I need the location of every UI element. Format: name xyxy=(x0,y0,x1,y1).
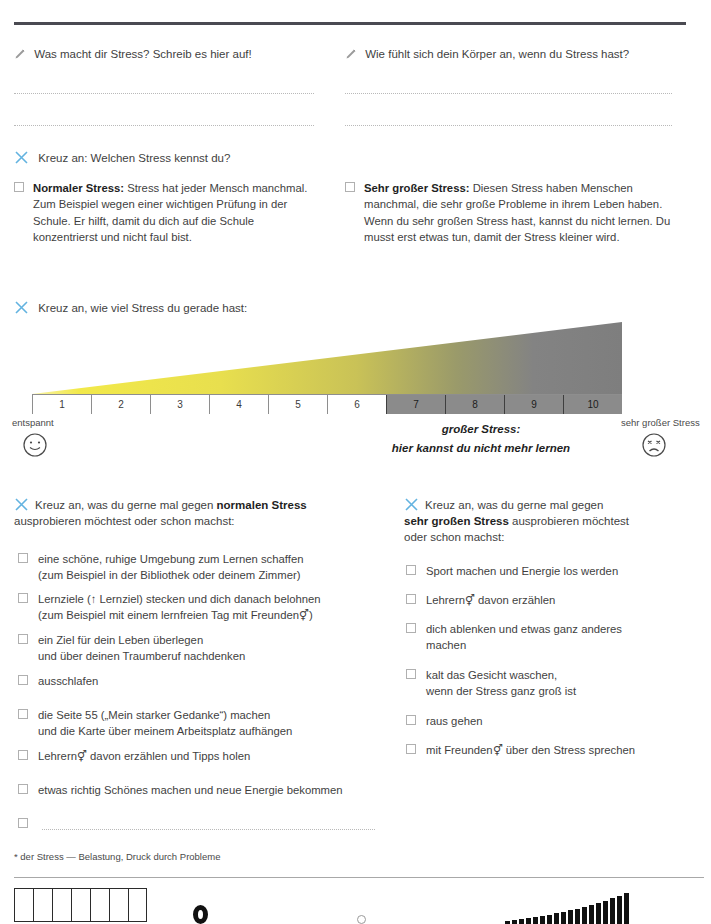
write-prompt-1-text: Was macht dir Stress? Schreib es hier au… xyxy=(34,48,252,60)
scale-caption-line2: hier kannst du nicht mehr lernen xyxy=(356,439,606,458)
scale-caption-line1: großer Stress: xyxy=(356,420,606,439)
worksheet-page: Was macht dir Stress? Schreib es hier au… xyxy=(0,0,711,924)
checkbox[interactable] xyxy=(406,744,416,754)
severe-list-heading-line2-post: ausprobieren möchtest xyxy=(509,515,629,527)
line-1: eine schöne, ruhige Umgebung zum Lernen … xyxy=(38,553,303,565)
checkbox[interactable] xyxy=(18,553,28,563)
stress-scale[interactable]: 1 2 3 4 5 6 7 8 9 10 xyxy=(32,322,622,413)
severe-list-heading-bold: sehr großen Stress xyxy=(404,515,509,527)
normal-list-heading-bold: normalen Stress xyxy=(217,499,307,511)
normal-option-7-text: etwas richtig Schönes machen und neue En… xyxy=(38,782,343,798)
severe-list-heading: Kreuz an, was du gerne mal gegen sehr gr… xyxy=(404,497,694,545)
normal-option-3[interactable]: ein Ziel für dein Leben überlegen und üb… xyxy=(18,632,388,664)
severe-option-6[interactable]: mit Freunden⚥ über den Stress sprechen xyxy=(406,742,686,758)
line-1: Lernziele (↑ Lernziel) stecken und dich … xyxy=(38,593,321,605)
top-clipped-text xyxy=(330,2,390,12)
scale-tick-3[interactable]: 3 xyxy=(150,395,209,414)
checkbox[interactable] xyxy=(406,715,416,725)
grid-cell xyxy=(71,888,90,922)
normal-option-7[interactable]: etwas richtig Schönes machen und neue En… xyxy=(18,782,388,798)
normal-option-6[interactable]: Lehrern⚥ davon erzählen und Tipps holen xyxy=(18,748,388,764)
scale-tick-2[interactable]: 2 xyxy=(91,395,150,414)
footer-divider xyxy=(14,877,704,878)
scale-tick-6[interactable]: 6 xyxy=(327,395,386,414)
severe-option-1[interactable]: Sport machen und Energie los werden xyxy=(406,563,686,579)
x-mark-icon xyxy=(14,497,29,512)
checkbox[interactable] xyxy=(18,593,28,603)
normal-list-heading: Kreuz an, was du gerne mal gegen normale… xyxy=(14,497,334,529)
checkbox[interactable] xyxy=(18,750,28,760)
stress-type-severe-title: Sehr großer Stress: xyxy=(364,182,469,194)
checkbox[interactable] xyxy=(18,634,28,644)
normal-option-8-write-line[interactable] xyxy=(42,828,375,830)
footer-circle-icon xyxy=(357,915,366,924)
header-divider xyxy=(14,22,686,25)
footnote: * der Stress — Belastung, Druck durch Pr… xyxy=(14,851,220,862)
normal-option-6-text: Lehrern⚥ davon erzählen und Tipps holen xyxy=(38,748,250,764)
line-2: (zum Beispiel mit einem lernfreien Tag m… xyxy=(38,609,313,621)
line-2: wenn der Stress ganz groß ist xyxy=(426,685,576,697)
footer-bar-chart xyxy=(505,890,629,924)
write-line-2a[interactable] xyxy=(345,92,672,94)
severe-option-5-text: raus gehen xyxy=(426,713,483,729)
normal-option-4[interactable]: ausschlafen xyxy=(18,673,388,689)
checkbox[interactable] xyxy=(18,709,28,719)
scale-tick-7[interactable]: 7 xyxy=(386,395,445,414)
scale-right-label: sehr großer Stress xyxy=(621,417,700,428)
checkbox[interactable] xyxy=(18,784,28,794)
stress-type-normal-text: Normaler Stress: Stress hat jeder Mensch… xyxy=(33,180,314,246)
severe-option-5[interactable]: raus gehen xyxy=(406,713,686,729)
grid-cell xyxy=(109,888,128,922)
pencil-icon xyxy=(14,48,26,60)
checkbox[interactable] xyxy=(18,675,28,685)
grid-cell xyxy=(14,888,33,922)
checkbox[interactable] xyxy=(345,182,355,192)
checkbox[interactable] xyxy=(406,669,416,679)
checkbox[interactable] xyxy=(14,182,24,192)
normal-option-2[interactable]: Lernziele (↑ Lernziel) stecken und dich … xyxy=(18,591,388,623)
scale-tick-8[interactable]: 8 xyxy=(445,395,504,414)
stress-types-heading-text: Kreuz an: Welchen Stress kennst du? xyxy=(38,152,230,164)
scale-tick-1[interactable]: 1 xyxy=(32,395,91,414)
x-mark-icon xyxy=(14,150,29,165)
normal-option-8-blank[interactable] xyxy=(18,816,388,828)
smiley-face-icon xyxy=(22,432,48,462)
line-2: (zum Beispiel in der Bibliothek oder dei… xyxy=(38,569,300,581)
checkbox[interactable] xyxy=(406,565,416,575)
severe-option-4[interactable]: kalt das Gesicht waschen, wenn der Stres… xyxy=(406,667,686,699)
scale-tick-9[interactable]: 9 xyxy=(504,395,563,414)
pencil-icon xyxy=(345,48,357,60)
normal-option-3-text: ein Ziel für dein Leben überlegen und üb… xyxy=(38,632,245,664)
grid-cell xyxy=(52,888,71,922)
scale-tick-4[interactable]: 4 xyxy=(209,395,268,414)
stress-gradient-triangle xyxy=(32,322,622,394)
severe-option-2[interactable]: Lehrern⚥ davon erzählen xyxy=(406,592,686,608)
severe-option-1-text: Sport machen und Energie los werden xyxy=(426,563,618,579)
write-prompt-2-text: Wie fühlt sich dein Körper an, wenn du S… xyxy=(365,48,629,60)
write-line-1b[interactable] xyxy=(14,124,314,126)
line-1: dich ablenken und etwas ganz anderes xyxy=(426,623,622,635)
normal-option-4-text: ausschlafen xyxy=(38,673,98,689)
normal-list-heading-post: ausprobieren möchtest oder schon machst: xyxy=(14,515,235,527)
stress-type-severe[interactable]: Sehr großer Stress: Diesen Stress haben … xyxy=(345,180,672,246)
scale-tick-5[interactable]: 5 xyxy=(268,395,327,414)
checkbox[interactable] xyxy=(406,594,416,604)
write-line-2b[interactable] xyxy=(345,124,672,126)
checkbox[interactable] xyxy=(406,623,416,633)
checkbox[interactable] xyxy=(18,818,28,828)
stress-type-normal[interactable]: Normaler Stress: Stress hat jeder Mensch… xyxy=(14,180,314,246)
write-line-1a[interactable] xyxy=(14,92,314,94)
normal-option-5[interactable]: die Seite 55 („Mein starker Gedanke“) ma… xyxy=(18,707,388,739)
line-1: ein Ziel für dein Leben überlegen xyxy=(38,634,203,646)
x-mark-icon xyxy=(14,300,29,315)
severe-option-4-text: kalt das Gesicht waschen, wenn der Stres… xyxy=(426,667,576,699)
scale-tick-10[interactable]: 10 xyxy=(563,395,622,414)
severe-list-heading-line1: Kreuz an, was du gerne mal gegen xyxy=(425,499,603,511)
normal-option-5-text: die Seite 55 („Mein starker Gedanke“) ma… xyxy=(38,707,292,739)
stress-type-severe-text: Sehr großer Stress: Diesen Stress haben … xyxy=(364,180,672,246)
normal-option-1[interactable]: eine schöne, ruhige Umgebung zum Lernen … xyxy=(18,551,388,583)
stress-type-normal-title: Normaler Stress: xyxy=(33,182,124,194)
line-2: machen xyxy=(426,639,466,651)
grid-cell xyxy=(128,888,147,922)
severe-option-3[interactable]: dich ablenken und etwas ganz anderes mac… xyxy=(406,621,686,653)
